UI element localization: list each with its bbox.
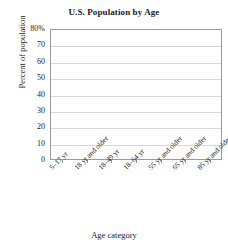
y-tick-label: 50 <box>37 74 45 82</box>
x-axis-title: Age category <box>0 230 228 240</box>
y-tick-label: 30 <box>37 107 45 115</box>
gridline <box>51 128 221 129</box>
y-tick-label: 80% <box>30 25 45 33</box>
y-tick-label: 60 <box>37 58 45 66</box>
chart-title: U.S. Population by Age <box>0 7 228 17</box>
y-tick-label: 40 <box>37 91 45 99</box>
x-axis-tick-labels: 5–17 yr18 yr and older18–49 yr18–64 yr55… <box>0 160 228 228</box>
y-tick-label: 20 <box>37 123 45 131</box>
chart-figure: U.S. Population by Age Percent of popula… <box>0 0 228 250</box>
gridline <box>51 63 221 64</box>
gridline <box>51 112 221 113</box>
gridline <box>51 46 221 47</box>
y-tick-label: 70 <box>37 41 45 49</box>
y-axis-tick-labels: 01020304050607080% <box>0 29 48 160</box>
gridline <box>51 79 221 80</box>
gridline <box>51 96 221 97</box>
y-tick-label: 10 <box>37 140 45 148</box>
